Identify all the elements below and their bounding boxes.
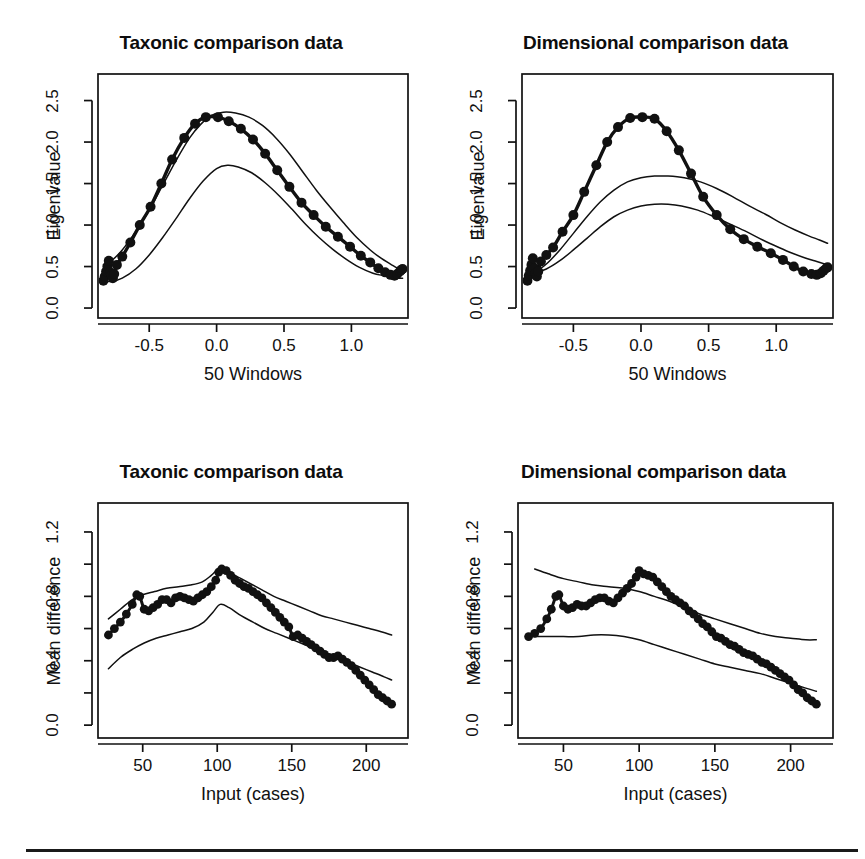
data-point-marker [135,220,145,230]
data-point-marker [309,210,319,220]
y-axis-title: Mean difference [44,503,65,738]
x-tick-label: 200 [757,756,825,776]
data-point-marker [698,192,708,202]
data-point-marker [167,154,177,164]
data-point-marker [547,605,556,614]
data-point-marker [752,242,762,252]
data-point-marker [236,124,246,134]
data-point-marker [778,255,788,265]
plot-box [98,503,408,738]
data-point-marker [333,232,343,242]
data-point-marker [739,234,749,244]
data-point-marker [789,262,799,272]
x-tick-label: 200 [332,756,400,776]
data-point-marker [766,248,776,258]
x-axis-title: Input (cases) [478,784,865,805]
x-tick-label: 50 [529,756,597,776]
data-point-marker [823,262,833,272]
data-point-marker [554,590,563,599]
panel-taxonic-mean-difference: Taxonic comparison data 501001502000.00.… [36,459,420,814]
plot-box [522,74,833,318]
data-point-marker [345,242,355,252]
footer-rule [26,849,858,852]
data-point-marker [122,610,131,619]
data-point-marker [125,237,135,247]
data-point-marker [112,260,122,270]
x-tick-label: 50 [109,756,177,776]
data-point-marker [662,126,672,136]
data-point-marker [637,112,647,122]
data-point-marker [686,169,696,179]
data-point-marker [190,119,200,129]
x-tick-label: 100 [605,756,673,776]
data-point-marker [201,112,211,122]
data-point-marker [213,112,223,122]
data-point-marker [156,179,166,189]
data-point-marker [179,133,189,143]
data-point-marker [116,618,125,627]
data-point-marker [297,198,307,208]
data-layer [98,112,407,286]
panel-dimensional-mean-difference: Dimensional comparison data 501001502000… [456,459,845,814]
data-point-marker [117,252,127,262]
x-tick-label: 1.0 [742,336,810,356]
data-point-marker [224,116,234,126]
data-point-marker [725,224,735,234]
lower-simulation-band [535,635,817,692]
data-point-marker [650,114,660,124]
data-point-marker [398,264,408,274]
data-point-marker [533,267,543,277]
y-axis-title: Eigenvalue [44,74,65,318]
data-point-marker [602,137,612,147]
data-point-marker [104,631,113,640]
x-tick-label: -0.5 [115,336,183,356]
x-tick-label: 0.0 [607,336,675,356]
data-point-marker [712,210,722,220]
plot-box [518,503,833,738]
data-point-marker [248,135,258,145]
figure-canvas: Taxonic comparison data -0.50.00.51.00.0… [0,0,865,859]
x-tick-label: 0.5 [675,336,743,356]
data-point-marker [284,623,293,632]
upper-simulation-band [108,569,391,635]
x-tick-label: 100 [183,756,251,776]
data-point-marker [548,242,558,252]
data-layer [522,112,832,285]
x-axis-title: 50 Windows [482,364,865,385]
x-tick-label: 0.0 [183,336,251,356]
data-point-marker [365,257,375,267]
y-axis-title: Eigenvalue [468,74,489,318]
data-point-marker [356,251,366,261]
data-point-marker [110,624,119,633]
data-point-marker [591,160,601,170]
panel-dimensional-eigenvalue: Dimensional comparison data -0.50.00.51.… [460,30,845,394]
data-point-marker [284,182,294,192]
x-tick-label: 150 [681,756,749,776]
data-point-marker [541,250,551,260]
data-point-marker [321,222,331,232]
lower-simulation-band [103,165,402,281]
x-tick-label: 1.0 [317,336,385,356]
panel-taxonic-eigenvalue: Taxonic comparison data -0.50.00.51.00.0… [36,30,420,394]
x-tick-label: 0.5 [250,336,318,356]
data-point-marker [211,576,220,585]
data-layer [524,566,821,708]
data-point-marker [128,600,137,609]
data-point-marker [625,113,635,123]
data-point-marker [536,624,545,633]
plot-box [98,74,408,318]
data-point-marker [613,122,623,132]
x-axis-title: 50 Windows [58,364,448,385]
data-point-marker [542,614,551,623]
data-point-marker [568,210,578,220]
data-point-marker [558,227,568,237]
data-point-marker [579,187,589,197]
x-tick-label: 150 [258,756,326,776]
x-tick-label: -0.5 [539,336,607,356]
data-point-marker [812,700,821,709]
data-point-marker [109,269,119,279]
data-point-marker [272,165,282,175]
data-point-marker [260,149,270,159]
y-axis-title: Mean difference [464,503,485,738]
data-layer [104,565,396,709]
